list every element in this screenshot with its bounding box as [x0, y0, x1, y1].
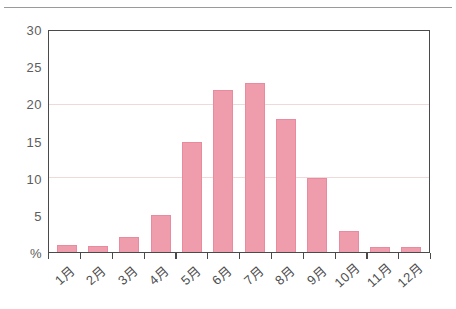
- bar-slot: [51, 31, 82, 252]
- x-axis-tick-label: 10月: [330, 258, 364, 292]
- bar-slot: [396, 31, 427, 252]
- y-axis-tick-label: 30: [27, 23, 42, 38]
- x-label-slot: 3月: [113, 253, 145, 309]
- x-label-slot: 6月: [208, 253, 240, 309]
- chart-figure: %51015202530 1月2月3月4月5月6月7月8月9月10月11月12月: [0, 0, 456, 309]
- x-label-slot: 12月: [397, 253, 429, 309]
- bar-11月[interactable]: [370, 247, 390, 252]
- x-axis-tick-label: 12月: [393, 258, 427, 292]
- x-axis-tick-mark: [430, 253, 431, 259]
- x-label-slot: 4月: [145, 253, 177, 309]
- header-rule: [4, 7, 452, 8]
- bar-3月[interactable]: [119, 237, 139, 252]
- x-label-slot: 1月: [50, 253, 82, 309]
- bar-slot: [364, 31, 395, 252]
- bar-slot: [145, 31, 176, 252]
- y-axis-tick-label: %: [30, 246, 42, 261]
- bar-12月[interactable]: [401, 247, 421, 252]
- bar-slot: [239, 31, 270, 252]
- x-axis-tick-label: 6月: [207, 260, 235, 288]
- x-axis-tick-label: 4月: [144, 260, 172, 288]
- bar-5月[interactable]: [182, 142, 202, 253]
- bar-slot: [270, 31, 301, 252]
- x-axis-tick-label: 5月: [176, 260, 204, 288]
- y-axis-tick-label: 20: [27, 97, 42, 112]
- y-axis-tick-label: 5: [34, 208, 42, 223]
- x-axis-tick-label: 1月: [50, 260, 78, 288]
- x-label-slot: 11月: [365, 253, 397, 309]
- x-axis-tick-label: 8月: [270, 260, 298, 288]
- x-label-slot: 8月: [271, 253, 303, 309]
- bar-slot: [114, 31, 145, 252]
- y-axis-tick-label: 10: [27, 171, 42, 186]
- bar-slot: [333, 31, 364, 252]
- y-axis-tick-label: 15: [27, 134, 42, 149]
- x-axis-tick-label: 3月: [113, 260, 141, 288]
- x-label-slot: 2月: [82, 253, 114, 309]
- x-label-slot: 5月: [176, 253, 208, 309]
- bar-slot: [302, 31, 333, 252]
- bar-8月[interactable]: [276, 119, 296, 252]
- bar-series: [49, 31, 429, 252]
- x-label-slot: 9月: [302, 253, 334, 309]
- bar-7月[interactable]: [245, 83, 265, 252]
- bar-slot: [176, 31, 207, 252]
- bar-slot: [208, 31, 239, 252]
- x-axis-tick-label: 2月: [81, 260, 109, 288]
- bar-2月[interactable]: [88, 246, 108, 252]
- x-axis-labels: 1月2月3月4月5月6月7月8月9月10月11月12月: [48, 253, 430, 309]
- x-axis-tick-label: 7月: [239, 260, 267, 288]
- bar-slot: [82, 31, 113, 252]
- x-label-slot: 10月: [334, 253, 366, 309]
- bar-9月[interactable]: [307, 178, 327, 252]
- x-axis-tick-label: 11月: [362, 258, 396, 291]
- bar-6月[interactable]: [213, 90, 233, 252]
- bar-4月[interactable]: [151, 215, 171, 252]
- bar-1月[interactable]: [57, 245, 77, 252]
- y-axis-tick-label: 25: [27, 60, 42, 75]
- x-label-slot: 7月: [239, 253, 271, 309]
- x-axis-tick-label: 9月: [302, 260, 330, 288]
- plot-area: [48, 30, 430, 253]
- y-axis: %51015202530: [0, 30, 48, 253]
- bar-10月[interactable]: [339, 231, 359, 252]
